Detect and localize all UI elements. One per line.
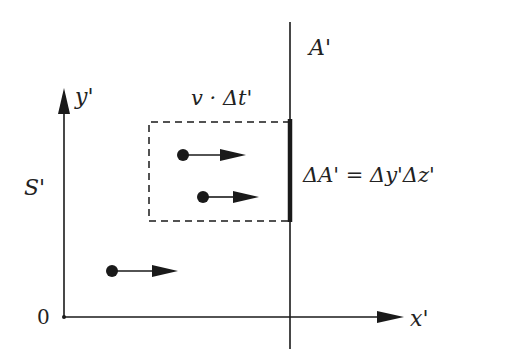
- x-axis-arrowhead-icon: [377, 311, 404, 323]
- surface-label: A': [307, 35, 331, 60]
- volume-length-label: v · Δt': [191, 86, 252, 110]
- x-axis-label: x': [410, 306, 428, 331]
- volume-dashed-box: [149, 122, 290, 221]
- particle-1: [177, 149, 246, 161]
- velocity-arrow-icon: [220, 149, 246, 161]
- y-axis: [58, 88, 70, 317]
- diagram-canvas: y' x' 0 S' A' v · Δt' ΔA' = Δy'Δz': [0, 0, 505, 364]
- velocity-arrow-icon: [233, 191, 259, 203]
- origin-label: 0: [37, 305, 50, 329]
- y-axis-arrowhead-icon: [58, 88, 70, 114]
- particle-3: [106, 265, 178, 277]
- velocity-arrow-icon: [152, 265, 178, 277]
- origin-dot-icon: [62, 315, 66, 319]
- x-axis: [64, 311, 404, 323]
- area-element-equation: ΔA' = Δy'Δz': [302, 163, 435, 187]
- particle-2: [197, 191, 259, 203]
- frame-label: S': [24, 175, 45, 200]
- y-axis-label: y': [74, 84, 93, 109]
